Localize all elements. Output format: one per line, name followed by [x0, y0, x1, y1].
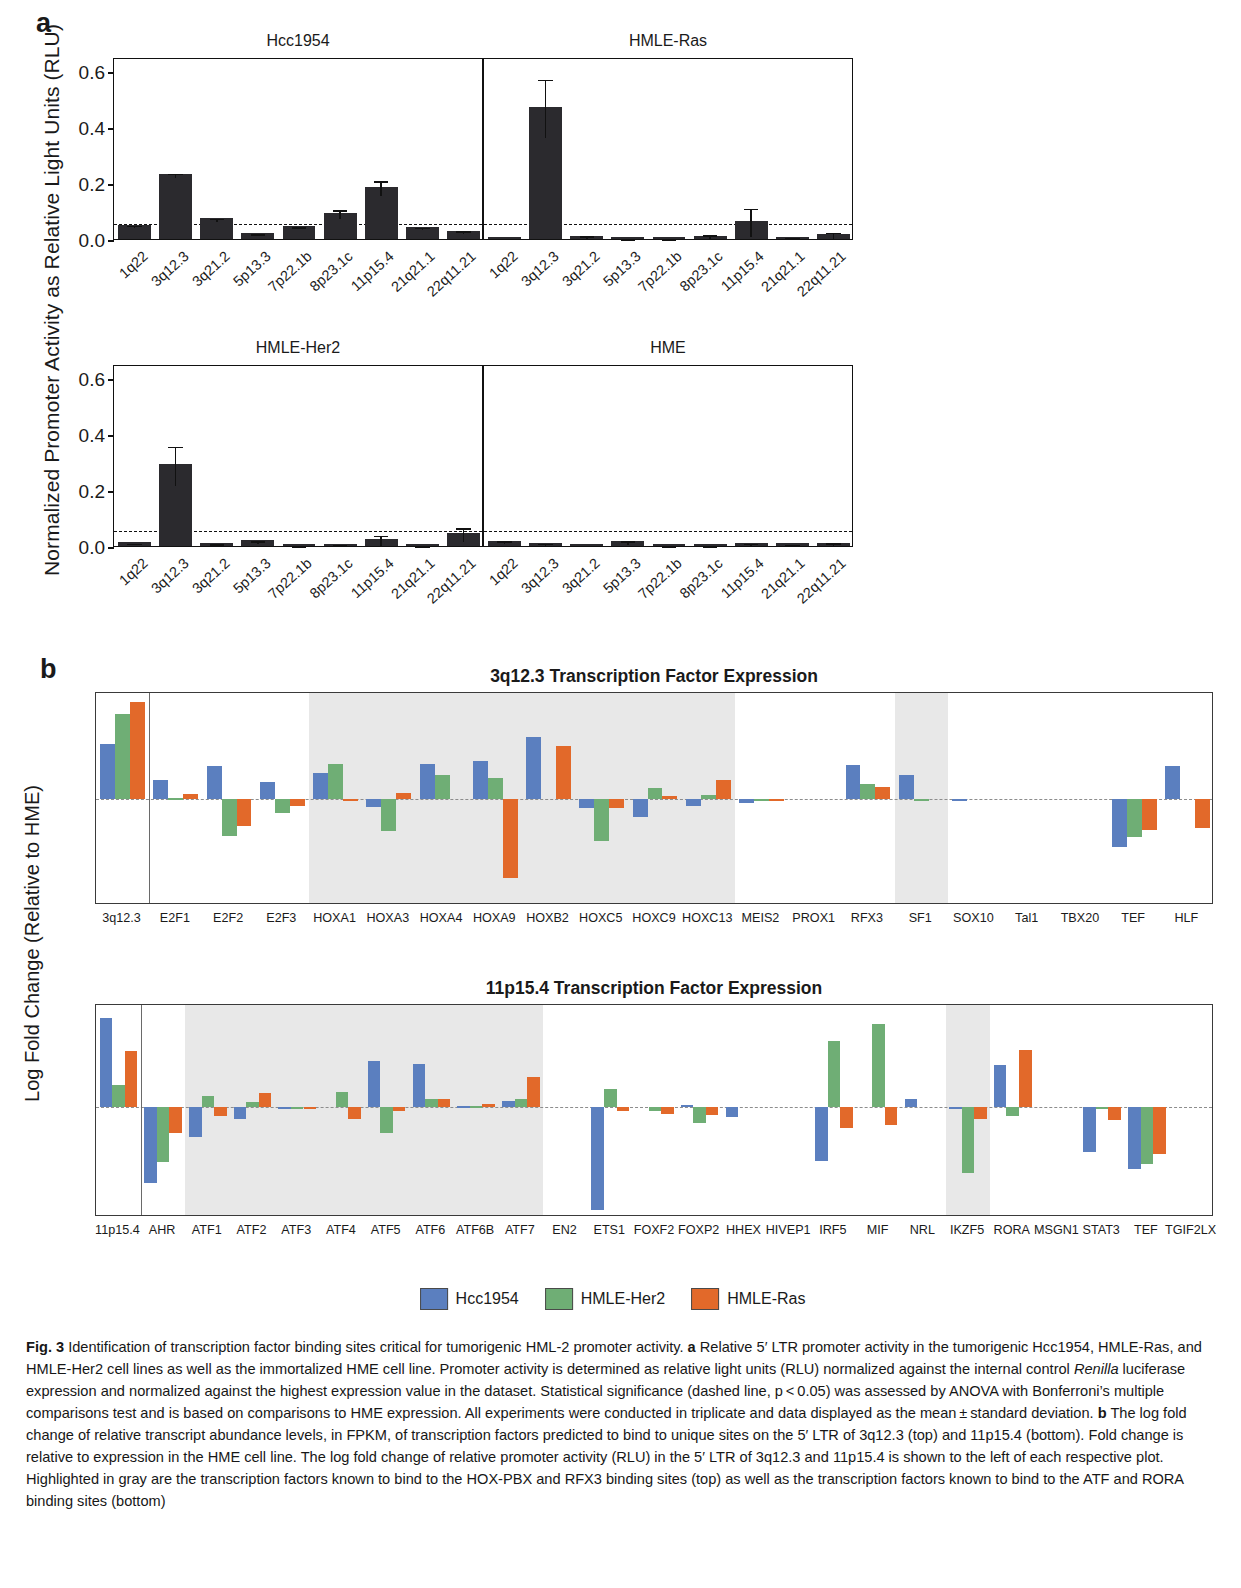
legend-swatch [545, 1288, 573, 1310]
bar [348, 1107, 361, 1119]
x-tick-label: HOXC9 [632, 911, 675, 925]
bar [681, 1105, 694, 1107]
bar [202, 1096, 215, 1107]
bar [604, 1089, 617, 1107]
plot-area [483, 58, 853, 240]
error-bar-line [175, 447, 177, 486]
bar [872, 1024, 885, 1108]
y-tick-mark [108, 184, 114, 186]
y-tick-mark [108, 240, 114, 242]
x-tick-label: TEF [1134, 1223, 1158, 1237]
x-tick-label: ATF2 [237, 1223, 267, 1237]
bar [366, 799, 381, 807]
bar [527, 1077, 540, 1107]
error-bar-cap [333, 210, 347, 212]
y-tick-label: 0.6 [79, 369, 105, 391]
error-bar-cap [497, 239, 511, 241]
figure-caption: Fig. 3 Identification of transcription f… [26, 1336, 1218, 1512]
y-tick-mark [108, 435, 114, 437]
bar [183, 794, 198, 799]
panel-a: a Normalized Promoter Activity as Relati… [0, 0, 1241, 630]
significance-line [484, 531, 852, 532]
bar [112, 1085, 125, 1107]
bar [693, 1107, 706, 1122]
error-bar-cap [292, 546, 306, 548]
bar [1108, 1107, 1121, 1120]
error-bar-line [380, 181, 382, 196]
legend-item-hmle-her2: HMLE-Her2 [545, 1288, 665, 1310]
error-bar-cap [621, 541, 635, 543]
bar [754, 799, 769, 801]
x-tick-label: E2F1 [160, 911, 190, 925]
x-tick-label: FOXF2 [634, 1223, 675, 1237]
bar [420, 764, 435, 799]
error-bar-cap [415, 228, 429, 230]
error-bar-cap [744, 544, 758, 546]
error-bar-line [463, 528, 465, 542]
error-bar-cap [580, 546, 594, 548]
bar [1083, 1107, 1096, 1152]
panel-a-y-axis-label: Normalized Promoter Activity as Relative… [40, 20, 64, 580]
error-bar-cap [168, 447, 182, 449]
caption-segment: b [1098, 1405, 1107, 1421]
x-tick-label: SF1 [909, 911, 932, 925]
bar [526, 737, 541, 799]
x-tick-label: SOX10 [953, 911, 994, 925]
y-tick-mark [95, 768, 96, 769]
y-tick-mark [95, 1029, 96, 1030]
x-tick-label: 11p15.4 [95, 1223, 140, 1237]
panel-a-chart-hmle-her2: HMLE-Her20.00.20.40.61q223q12.33q21.25p1… [113, 365, 483, 547]
bar [115, 714, 130, 799]
y-tick-mark [108, 128, 114, 130]
plot-area: -1.5-1.0-0.50.00.51.01.5 [95, 692, 1213, 904]
bar [860, 784, 875, 799]
x-tick-label: NRL [910, 1223, 935, 1237]
y-tick-label: 0.2 [79, 481, 105, 503]
bar [962, 1107, 975, 1173]
x-tick-label: STAT3 [1083, 1223, 1120, 1237]
error-bar-cap [580, 236, 594, 238]
x-tick-label: ATF6B [456, 1223, 494, 1237]
bar [648, 788, 663, 799]
bar [653, 544, 686, 546]
bar [234, 1107, 247, 1119]
error-bar-cap [621, 239, 635, 241]
bar [488, 778, 503, 799]
group-separator [141, 1005, 142, 1215]
bar [482, 1104, 495, 1107]
bar [368, 1061, 381, 1107]
bar [100, 1018, 113, 1107]
error-bar-cap [703, 235, 717, 237]
error-bar-cap [744, 209, 758, 211]
legend-item-hcc1954: Hcc1954 [420, 1288, 519, 1310]
x-tick-label: ATF3 [281, 1223, 311, 1237]
legend-item-hmle-ras: HMLE-Ras [691, 1288, 805, 1310]
chart-title: HMLE-Her2 [113, 339, 483, 357]
panel-a-chart-hcc1954: Hcc19540.00.20.40.61q223q12.33q21.25p13.… [113, 58, 483, 240]
y-tick-mark [95, 1145, 96, 1146]
error-bar-cap [210, 544, 224, 546]
x-tick-label: MIF [867, 1223, 889, 1237]
bar [662, 796, 677, 799]
bar [1127, 799, 1142, 837]
bar [609, 799, 624, 808]
error-bar-cap [374, 181, 388, 183]
bar [438, 1099, 451, 1108]
y-tick-mark [108, 547, 114, 549]
bar [1006, 1107, 1019, 1116]
error-bar-cap [168, 174, 182, 176]
x-tick-label: HOXA3 [366, 911, 409, 925]
error-bar-cap [662, 239, 676, 241]
x-tick-label: HOXA4 [420, 911, 463, 925]
x-tick-label: HOXC5 [579, 911, 622, 925]
y-tick-label: 0.4 [79, 118, 105, 140]
bar [413, 1064, 426, 1107]
plot-area: 0.00.20.40.6 [113, 365, 483, 547]
x-tick-label: PROX1 [792, 911, 835, 925]
bar [701, 795, 716, 799]
x-tick-label: HOXC13 [682, 911, 732, 925]
y-tick-label: 0.6 [79, 62, 105, 84]
chart-title: Hcc1954 [113, 32, 483, 50]
error-bar-cap [292, 227, 306, 229]
x-tick-label: TEF [1121, 911, 1145, 925]
